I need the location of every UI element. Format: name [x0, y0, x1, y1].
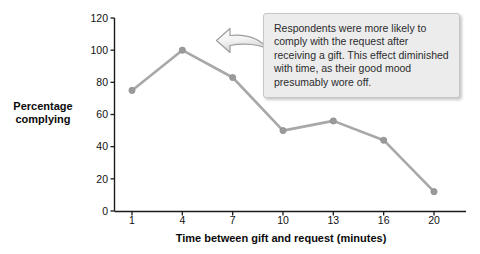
data-point-marker [381, 137, 387, 143]
y-tick-label: 120 [90, 12, 108, 24]
data-point-marker [179, 47, 185, 53]
y-tick-label: 0 [102, 205, 108, 217]
x-tick-label: 10 [277, 214, 289, 226]
x-tick-label: 16 [378, 214, 390, 226]
y-tick-label: 80 [96, 76, 108, 88]
x-tick-label: 4 [179, 214, 185, 226]
data-point-marker [230, 74, 236, 80]
y-tick-label: 40 [96, 140, 108, 152]
x-tick-label: 1 [129, 214, 135, 226]
annotation-callout: Respondents were more likely to comply w… [263, 13, 460, 98]
y-tick-label: 20 [96, 173, 108, 185]
data-point-marker [280, 127, 286, 133]
data-point-marker [129, 87, 135, 93]
data-point-marker [330, 118, 336, 124]
chart-figure: Percentage complying Time between gift a… [0, 0, 480, 254]
x-tick-label: 7 [230, 214, 236, 226]
x-tick-label: 13 [327, 214, 339, 226]
x-axis-tick-labels: 14710131620 [129, 214, 440, 226]
data-point-marker [431, 189, 437, 195]
y-tick-label: 100 [90, 44, 108, 56]
y-axis-tick-labels: 020406080100120 [90, 12, 108, 217]
y-tick-label: 60 [96, 108, 108, 120]
x-tick-label: 20 [428, 214, 440, 226]
